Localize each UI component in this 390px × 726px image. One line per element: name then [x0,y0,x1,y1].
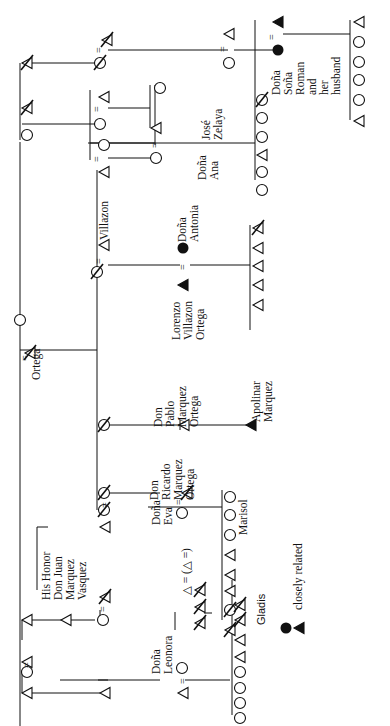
label-lorenzo: Lorenzo Villazon Ortega [170,301,206,340]
legend-text: closely related [292,543,304,610]
svg-text:=: = [91,156,102,162]
label-dona-antonia: Doña Antonia [176,205,200,242]
svg-text:=: = [217,46,228,52]
label-marisol: Marisol [237,499,249,535]
kinship-diagram: = = = = = = = = = = = = = = [0,0,390,726]
label-villazon: Villazon [98,201,110,240]
svg-text:=: = [91,106,102,112]
svg-text:=: = [93,258,104,264]
label-eva-note: △ = (△ =) [180,548,192,595]
label-jose-zelaya: José Zelaya [200,109,224,140]
label-don-ricardo: Don Ricardo Marquez Ortega [148,459,196,500]
svg-text:=: = [149,142,160,148]
label-gladis: Gladis [255,594,267,625]
svg-text:=: = [93,47,104,53]
label-ortega: Ortega [30,349,42,380]
label-dona-eva: Doña Eva [150,500,174,525]
svg-text:=: = [99,502,110,508]
svg-text:=: = [97,606,108,612]
svg-text:=: = [266,34,277,40]
label-his-honor: His Honor Don Juan Marquez Vasquez [40,552,88,600]
label-don-pablo: Don Pablo Marquez Ortega [152,386,200,427]
label-apolinar: Apolinar Marquez [250,381,274,422]
svg-text:=: = [177,264,188,270]
label-dona-leonora: Doña Leonora [150,636,174,674]
label-dona-sona: Doña Soña Roman and her husband [270,57,342,95]
label-dona-ana: Doña Ana [196,155,220,180]
svg-text:=: = [19,355,30,361]
svg-text:=: = [177,678,188,684]
svg-text:=: = [21,662,32,668]
